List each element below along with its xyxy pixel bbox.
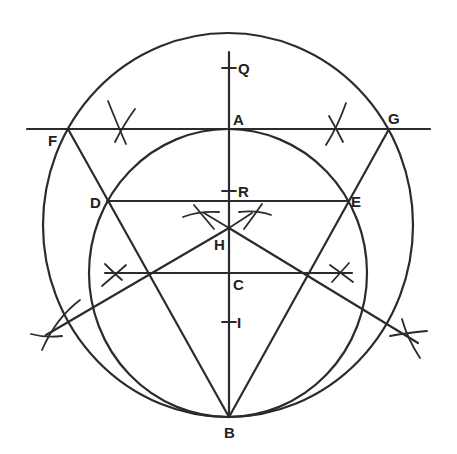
label-h: H bbox=[214, 236, 225, 253]
label-i: I bbox=[237, 314, 241, 331]
label-d: D bbox=[90, 194, 101, 211]
label-c: C bbox=[233, 276, 244, 293]
arc-mark-c-left-2 bbox=[102, 265, 126, 286]
label-q: Q bbox=[238, 60, 250, 77]
construction-diagram: Q A F G R D E H C I B bbox=[0, 0, 457, 454]
ray-h-upper-right bbox=[229, 213, 252, 228]
label-e: E bbox=[351, 193, 361, 210]
label-b: B bbox=[224, 424, 235, 441]
label-f: F bbox=[48, 132, 57, 149]
label-r: R bbox=[238, 183, 249, 200]
label-a: A bbox=[233, 111, 244, 128]
arc-mark-right-fg bbox=[326, 103, 346, 145]
bisector-ray-left bbox=[46, 228, 229, 335]
label-g: G bbox=[388, 110, 400, 127]
